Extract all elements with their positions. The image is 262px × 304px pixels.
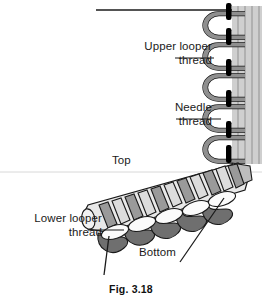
needle-thread-bar <box>226 3 232 20</box>
label-lower-looper-line2: thread <box>6 225 102 239</box>
figure-root: Upper looper thread Needle thread Lower … <box>0 0 262 304</box>
label-lower-looper-thread: Lower looper thread <box>6 211 102 239</box>
label-needle-thread: Needle thread <box>140 100 212 128</box>
label-upper-looper-thread: Upper looper thread <box>128 39 212 67</box>
figure-caption: Fig. 3.18 <box>0 283 262 295</box>
needle-thread-bar <box>226 59 232 76</box>
label-upper-looper-line2: thread <box>128 53 212 67</box>
needle-thread-bar <box>226 145 232 163</box>
label-upper-looper-line1: Upper looper <box>128 39 212 53</box>
fabric-edge-band <box>232 6 262 164</box>
needle-thread-bar <box>226 90 232 107</box>
upper-looper-thread-group <box>203 6 262 164</box>
needle-thread-bar <box>226 28 232 45</box>
label-bottom: Bottom <box>139 245 176 259</box>
label-needle-line2: thread <box>140 114 212 128</box>
label-top: Top <box>112 153 131 167</box>
needle-thread-bar <box>226 121 232 138</box>
label-lower-looper-line1: Lower looper <box>6 211 102 225</box>
label-needle-line1: Needle <box>140 100 212 114</box>
